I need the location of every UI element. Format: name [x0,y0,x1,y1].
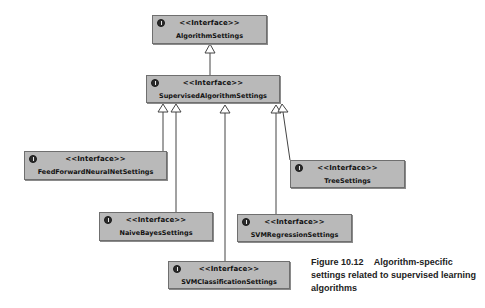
generalization-arrow-icon [220,105,230,113]
node-feed-forward-neural-net-settings[interactable]: <<Interface>> FeedForwardNeuralNetSettin… [24,151,167,180]
node-stereotype: <<Interface>> [169,265,289,273]
node-stereotype: <<Interface>> [153,19,266,27]
node-name: FeedForwardNeuralNetSettings [25,168,166,176]
node-algorithm-settings[interactable]: <<Interface>> AlgorithmSettings [152,15,267,44]
generalization-arrow-icon [278,104,288,112]
node-tree-settings[interactable]: <<Interface>> TreeSettings [290,160,405,188]
node-svm-regression-settings[interactable]: <<Interface>> SVMRegressionSettings [237,214,352,242]
node-name: AlgorithmSettings [153,32,266,40]
node-svm-classification-settings[interactable]: <<Interface>> SVMClassificationSettings [168,261,290,289]
node-name: TreeSettings [291,177,404,185]
generalization-arrow-icon [171,104,181,112]
node-name: SVMRegressionSettings [238,231,351,239]
node-naive-bayes-settings[interactable]: <<Interface>> NaiveBayesSettings [99,212,213,241]
node-name: SupervisedAlgorithmSettings [147,92,279,100]
diagram-canvas: <<Interface>> AlgorithmSettings <<Interf… [0,0,485,308]
generalization-arrow-icon [158,104,168,112]
node-name: SVMClassificationSettings [169,278,289,286]
node-stereotype: <<Interface>> [100,216,212,224]
figure-caption: Figure 10.12 Algorithm-specific settings… [311,256,483,295]
node-stereotype: <<Interface>> [147,79,279,87]
node-supervised-algorithm-settings[interactable]: <<Interface>> SupervisedAlgorithmSetting… [146,75,280,103]
figure-label: Figure 10.12 [311,257,364,267]
node-stereotype: <<Interface>> [238,218,351,226]
connector-tree-to-supervised [283,112,290,160]
node-stereotype: <<Interface>> [291,164,404,172]
generalization-arrow-icon [205,44,215,53]
node-stereotype: <<Interface>> [25,155,166,163]
node-name: NaiveBayesSettings [100,229,212,237]
